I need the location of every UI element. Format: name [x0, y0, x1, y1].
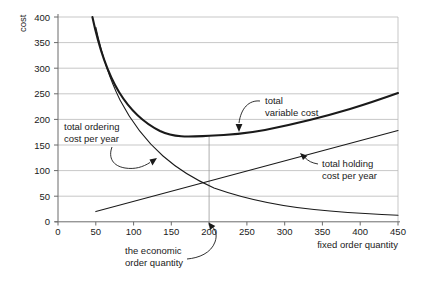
y-tick-label: 300: [34, 63, 50, 74]
x-tick-label: 350: [314, 226, 330, 237]
annotation-total-ordering-cost-line1: total ordering: [64, 121, 119, 132]
eoq-cost-chart: 400 350 300 250 200 150 100 50 0 0 50: [0, 0, 429, 285]
y-tick-label: 50: [39, 191, 50, 202]
annotation-eoq-line1: the economic: [125, 245, 182, 256]
y-tick-label: 0: [45, 216, 50, 227]
y-tick-label: 100: [34, 165, 50, 176]
x-tick-label: 400: [352, 226, 368, 237]
y-tick-label: 350: [34, 37, 50, 48]
annotation-total-holding-cost-line2: cost per year: [322, 170, 377, 181]
x-tick-label: 450: [390, 226, 406, 237]
x-tick-label: 50: [91, 226, 102, 237]
x-tick-label: 200: [201, 226, 217, 237]
y-axis-title: cost: [17, 14, 28, 32]
annotation-eoq-line2: order quantity: [125, 257, 183, 268]
x-tick-label: 0: [55, 226, 60, 237]
annotation-total-variable-cost-line1: total: [265, 95, 283, 106]
y-tick-label: 400: [34, 12, 50, 23]
x-tick-label: 250: [239, 226, 255, 237]
annotation-total-ordering-cost-line2: cost per year: [64, 133, 119, 144]
x-tick-label: 150: [163, 226, 179, 237]
annotation-total-holding-cost-line1: total holding: [322, 158, 373, 169]
x-axis-title: fixed order quantity: [317, 239, 398, 250]
chart-canvas: 400 350 300 250 200 150 100 50 0 0 50: [0, 0, 429, 285]
x-tick-label: 100: [126, 226, 142, 237]
y-tick-label: 250: [34, 88, 50, 99]
x-tick-label: 300: [277, 226, 293, 237]
annotation-total-variable-cost-line2: variable cost: [265, 107, 319, 118]
y-tick-label: 200: [34, 114, 50, 125]
y-tick-label: 150: [34, 140, 50, 151]
